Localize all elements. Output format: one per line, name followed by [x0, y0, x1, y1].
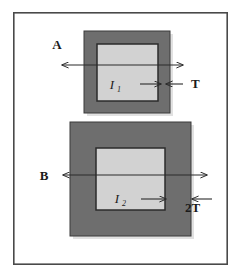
label-i2-subscript: 2	[122, 199, 126, 208]
figure-container: A T B 2T I 1 I 2	[0, 0, 247, 275]
cross-section-diagram: A T B 2T I 1 I 2	[0, 0, 247, 275]
label-t: T	[191, 76, 200, 91]
label-2t: 2T	[185, 200, 201, 215]
upper-section-core	[97, 44, 158, 101]
label-a: A	[52, 37, 62, 52]
label-i1: I	[109, 77, 115, 92]
lower-section-core	[96, 148, 165, 210]
label-b: B	[40, 168, 49, 183]
label-i1-subscript: 1	[117, 85, 121, 94]
label-i2: I	[114, 191, 120, 206]
